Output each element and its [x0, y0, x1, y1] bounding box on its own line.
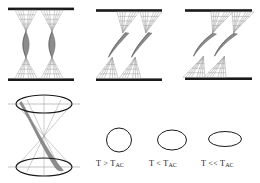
panel-b-fan-bundles — [96, 12, 162, 79]
double-cone-group — [8, 95, 80, 176]
label-3-subscript: AC — [225, 162, 233, 168]
panel-a-group — [8, 8, 74, 81]
panel-c-ribbon-left — [194, 33, 217, 56]
panel-c-ribbon-right — [215, 33, 238, 56]
label-3-prefix: T — [201, 159, 206, 168]
panel-c-group — [183, 9, 254, 80]
cross-section-ellipse-1 — [107, 128, 132, 152]
cross-section-ellipse-3 — [209, 132, 242, 147]
label-2-subscript: AC — [168, 162, 176, 168]
panel-a-bottom-plate — [8, 78, 74, 81]
panel-c-fan-bundles — [183, 12, 254, 78]
label-1-subscript: AC — [115, 162, 123, 168]
panel-b-ribbon-left — [109, 33, 130, 58]
cross-section-label-1: T > TAC — [96, 159, 124, 168]
panel-a-ribbon-right — [49, 31, 55, 57]
panel-a-ribbon-left — [23, 31, 29, 57]
label-3-operator: << — [208, 159, 218, 168]
cross-section-ellipse-2 — [158, 130, 187, 150]
panel-b-group — [96, 9, 162, 81]
cross-section-label-3: T << TAC — [201, 159, 234, 168]
cross-section-ellipses — [107, 128, 242, 152]
panel-b-top-plate — [96, 9, 162, 12]
label-1-operator: > — [103, 159, 108, 168]
panel-c-bottom-plate — [185, 77, 252, 80]
panel-a-top-plate — [8, 8, 74, 11]
label-2-prefix: T — [149, 159, 154, 168]
panel-b-bottom-plate — [96, 78, 162, 81]
label-2-operator: < — [156, 159, 161, 168]
panel-b-ribbon-right — [132, 33, 153, 58]
diagram-canvas — [0, 0, 260, 183]
cross-section-label-2: T < TAC — [149, 159, 177, 168]
label-1-prefix: T — [96, 159, 101, 168]
panel-a-fan-bundles — [15, 10, 63, 78]
panel-c-top-plate — [185, 9, 252, 12]
figure-root: T > TAC T < TAC T << TAC — [0, 0, 260, 183]
